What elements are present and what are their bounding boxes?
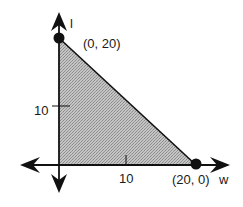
y-tick-label-10: 10 [34, 103, 48, 118]
y-axis-label: l [70, 16, 73, 31]
point-0-20 [54, 33, 65, 44]
point-20-0 [191, 159, 202, 170]
x-tick-label-10: 10 [119, 171, 133, 186]
x-axis-label: w [218, 172, 229, 187]
point-right-label: (20, 0) [172, 172, 210, 187]
chart-canvas: l (0, 20) 10 10 (20, 0) w [0, 0, 243, 207]
point-top-label: (0, 20) [83, 36, 121, 51]
